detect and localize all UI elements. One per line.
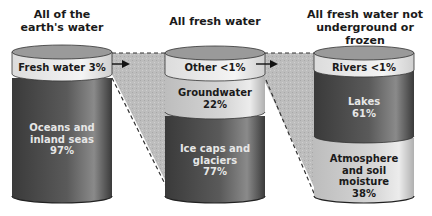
label-fresh-water: Fresh water 3% bbox=[12, 62, 112, 74]
label-atmosphere: Atmosphere and soil moisture 38% bbox=[314, 153, 414, 199]
title-fresh-water: All fresh water bbox=[155, 15, 275, 28]
label-ice-caps: Ice caps and glaciers 77% bbox=[165, 143, 265, 178]
label-other: Other <1% bbox=[165, 62, 265, 74]
label-oceans: Oceans and inland seas 97% bbox=[12, 122, 112, 157]
title-surface-water: All fresh water not underground or froze… bbox=[298, 8, 432, 47]
connector-2 bbox=[260, 53, 320, 200]
title-earth-water: All of the earth's water bbox=[2, 8, 122, 34]
label-lakes: Lakes 61% bbox=[314, 96, 414, 119]
label-rivers: Rivers <1% bbox=[314, 62, 414, 74]
label-groundwater: Groundwater 22% bbox=[165, 87, 265, 110]
